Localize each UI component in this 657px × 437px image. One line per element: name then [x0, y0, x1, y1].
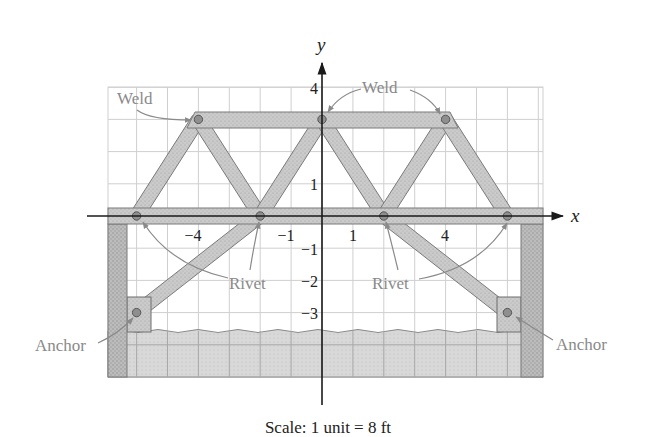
anchor-rivet [503, 308, 511, 316]
x-tick-1: 1 [349, 227, 357, 244]
rivet-label-left: Rivet [229, 274, 266, 293]
bridge-truss-diagram: x y −4 −1 1 4 4 1 −1 −2 −3 Weld Weld Riv… [0, 0, 657, 437]
y-tick-neg1: −1 [301, 241, 318, 258]
weld-left-arrow [137, 110, 191, 120]
anchor-label-right: Anchor [556, 335, 607, 354]
pillar-right [521, 224, 543, 377]
y-tick-4: 4 [310, 80, 318, 97]
weld-joint [194, 115, 202, 123]
ground [108, 330, 543, 378]
y-tick-neg3: −3 [301, 305, 318, 322]
x-tick-4: 4 [441, 227, 449, 244]
y-tick-neg2: −2 [301, 273, 318, 290]
rivet-label-right: Rivet [372, 274, 409, 293]
anchor-label-left: Anchor [35, 336, 86, 355]
x-tick-neg4: −4 [184, 227, 201, 244]
x-axis-label: x [570, 205, 580, 226]
scale-caption: Scale: 1 unit = 8 ft [265, 418, 391, 437]
x-tick-neg1: −1 [277, 227, 294, 244]
y-axis-label: y [315, 34, 326, 55]
weld-label-left: Weld [117, 89, 153, 108]
pillar-left [108, 224, 127, 377]
weld-joint [441, 115, 449, 123]
y-tick-1: 1 [310, 176, 318, 193]
weld-label-center: Weld [362, 78, 398, 97]
weld-center-arrow [328, 89, 361, 112]
anchor-rivet [132, 308, 140, 316]
